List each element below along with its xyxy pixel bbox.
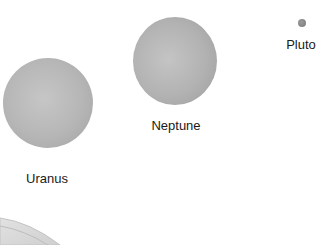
neptune-label: Neptune (151, 119, 200, 132)
pluto-planet (298, 19, 306, 27)
pluto-label: Pluto (286, 38, 316, 51)
uranus-planet (3, 58, 93, 148)
neptune-planet (133, 17, 217, 105)
uranus-label: Uranus (26, 172, 68, 185)
